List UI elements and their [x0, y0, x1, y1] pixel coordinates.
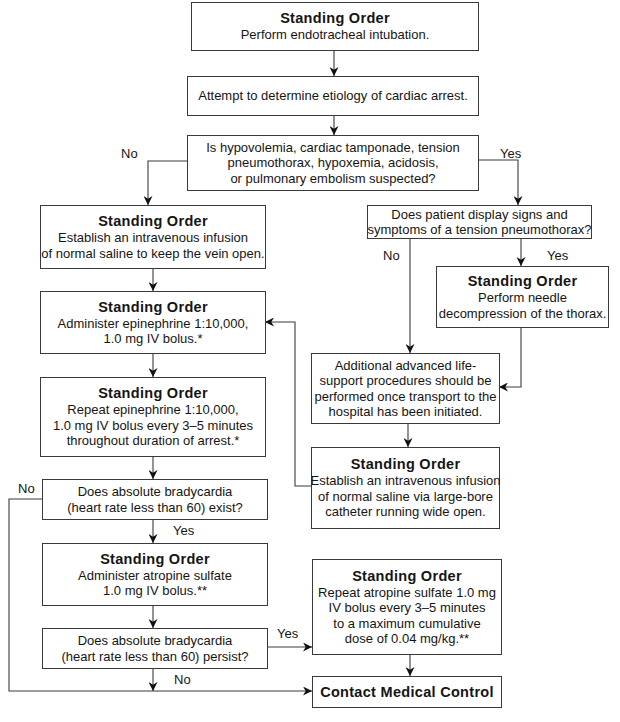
node-determine-etiology: Attempt to determine etiology of cardiac…	[187, 76, 479, 116]
node-text: support procedures should be	[319, 373, 491, 389]
standing-order-heading: Standing Order	[98, 299, 208, 316]
node-text: Administer epinephrine 1:10,000,	[58, 316, 249, 332]
node-additional-als: Additional advanced life- support proced…	[311, 353, 500, 424]
node-text: pneumothorax, hypoxemia, acidosis,	[227, 155, 438, 171]
standing-order-heading: Standing Order	[351, 456, 461, 473]
node-text: 1.0 mg IV bolus.*	[104, 331, 203, 347]
node-text: of normal saline via large-bore	[318, 489, 493, 505]
node-text: to a maximum cumulative	[333, 616, 480, 632]
node-text: catheter running wide open.	[325, 504, 485, 520]
standing-order-heading: Standing Order	[98, 213, 208, 230]
standing-order-heading: Standing Order	[98, 385, 208, 402]
node-atropine-order: Standing Order Administer atropine sulfa…	[42, 543, 268, 606]
arrow-n10-n7	[265, 322, 311, 486]
edge-label-n14-yes: Yes	[277, 626, 298, 641]
node-intubation-order: Standing Order Perform endotracheal intu…	[191, 2, 479, 51]
node-bradycardia-persist-question: Does absolute bradycardia (heart rate le…	[42, 628, 268, 669]
node-text: or pulmonary embolism suspected?	[230, 171, 435, 187]
arrow-n3-n5	[478, 160, 518, 205]
arrow-n3-n4	[148, 161, 187, 205]
node-text: Establish an intravenous infusion	[310, 473, 500, 489]
node-repeat-epinephrine-order: Standing Order Repeat epinephrine 1:10,0…	[40, 377, 266, 457]
edge-label-n5-no: No	[383, 248, 400, 263]
node-bradycardia-exist-question: Does absolute bradycardia (heart rate le…	[42, 479, 268, 520]
node-text: Does absolute bradycardia	[78, 484, 233, 500]
node-text: 1.0 mg IV bolus.**	[103, 583, 207, 599]
node-text: Administer atropine sulfate	[78, 568, 232, 584]
contact-medical-control-label: Contact Medical Control	[320, 684, 494, 701]
node-text: of normal saline to keep the vein open.	[41, 246, 264, 262]
node-text: Repeat atropine sulfate 1.0 mg	[318, 585, 496, 601]
node-epinephrine-order: Standing Order Administer epinephrine 1:…	[40, 291, 266, 354]
standing-order-heading: Standing Order	[100, 551, 210, 568]
node-reversible-causes-question: Is hypovolemia, cardiac tamponade, tensi…	[187, 135, 479, 191]
node-text: Repeat epinephrine 1:10,000,	[67, 402, 238, 418]
edge-label-n14-no: No	[174, 672, 191, 687]
node-text: Perform endotracheal intubation.	[241, 27, 430, 43]
arrow-n6-n8	[499, 327, 521, 387]
node-text: (heart rate less than 60) exist?	[67, 500, 243, 516]
edge-label-n5-yes: Yes	[547, 248, 568, 263]
node-text: Does absolute bradycardia	[78, 633, 233, 649]
node-text: hospital has been initiated.	[329, 404, 483, 420]
node-text: Attempt to determine etiology of cardiac…	[198, 88, 468, 104]
node-text: Does patient display signs and	[391, 207, 567, 222]
node-iv-kvo-order: Standing Order Establish an intravenous …	[40, 205, 266, 269]
edge-label-n3-no: No	[121, 146, 138, 161]
standing-order-heading: Standing Order	[352, 568, 462, 585]
node-text: throughout duration of arrest.*	[67, 433, 240, 449]
standing-order-heading: Standing Order	[280, 10, 390, 27]
node-text: Is hypovolemia, cardiac tamponade, tensi…	[206, 140, 460, 156]
node-text: performed once transport to the	[314, 389, 496, 405]
node-text: 1.0 mg IV bolus every 3–5 minutes	[53, 418, 253, 434]
node-text: symptoms of a tension pneumothorax?	[368, 222, 592, 237]
node-needle-decompression-order: Standing Order Perform needle decompress…	[436, 266, 609, 328]
node-text: IV bolus every 3–5 minutes	[329, 600, 486, 616]
edge-label-n11-no: No	[18, 481, 35, 496]
node-text: Establish an intravenous infusion	[58, 230, 248, 246]
node-iv-wide-open-order: Standing Order Establish an intravenous …	[311, 447, 500, 529]
node-contact-medical-control: Contact Medical Control	[312, 676, 502, 708]
node-repeat-atropine-order: Standing Order Repeat atropine sulfate 1…	[312, 559, 502, 655]
edge-label-n3-yes: Yes	[500, 146, 521, 161]
node-text: Additional advanced life-	[335, 358, 477, 374]
node-text: (heart rate less than 60) persist?	[61, 649, 248, 665]
edge-label-n11-yes: Yes	[173, 523, 194, 538]
node-text: decompression of the thorax.	[439, 306, 607, 322]
node-text: dose of 0.04 mg/kg.**	[345, 631, 469, 647]
node-tension-pneumothorax-question: Does patient display signs and symptoms …	[367, 205, 592, 239]
node-text: Perform needle	[478, 290, 567, 306]
standing-order-heading: Standing Order	[468, 273, 578, 290]
